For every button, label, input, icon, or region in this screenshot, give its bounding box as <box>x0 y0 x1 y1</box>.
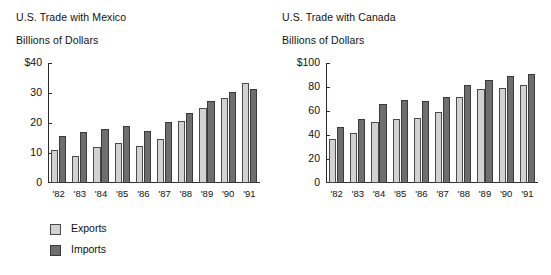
x-tick-label-canada-6: '88 <box>453 188 474 199</box>
bar-imports <box>379 104 386 183</box>
bar-group <box>499 63 514 183</box>
bar-exports <box>221 98 228 183</box>
legend-label-imports: Imports <box>71 243 106 255</box>
bar-group <box>221 63 236 183</box>
bar-imports <box>337 127 344 183</box>
chart-subtitle-mexico: Billions of Dollars <box>16 34 98 46</box>
x-tick-label-canada-9: '91 <box>517 188 538 199</box>
y-tick-label-canada-60: 60 <box>270 104 320 116</box>
chart-panel-canada: U.S. Trade with Canada Billions of Dolla… <box>270 0 551 275</box>
bar-imports <box>528 74 535 183</box>
bar-group <box>51 63 66 183</box>
x-tick-label-mexico-9: '91 <box>239 188 260 199</box>
bar-imports <box>59 136 66 183</box>
bar-group <box>157 63 172 183</box>
bar-imports <box>207 101 214 183</box>
bar-group <box>242 63 257 183</box>
bar-exports <box>477 89 484 183</box>
bar-group <box>93 63 108 183</box>
bar-imports <box>101 129 108 183</box>
bar-exports <box>499 88 506 183</box>
x-tick-label-canada-8: '90 <box>496 188 517 199</box>
chart-subtitle-canada: Billions of Dollars <box>282 34 364 46</box>
bar-imports <box>123 126 130 183</box>
plot-area-canada <box>326 63 538 183</box>
bar-group <box>414 63 429 183</box>
x-tick-label-mexico-7: '89 <box>196 188 217 199</box>
bar-imports <box>186 113 193 183</box>
bar-exports <box>136 146 143 183</box>
bar-group <box>178 63 193 183</box>
bar-exports <box>414 118 421 183</box>
x-tick-label-canada-0: '82 <box>326 188 347 199</box>
bar-exports <box>199 108 206 183</box>
bar-group <box>456 63 471 183</box>
bar-imports <box>144 131 151 183</box>
y-tick-label-canada-80: 80 <box>270 80 320 92</box>
bar-group <box>350 63 365 183</box>
x-tick-label-canada-1: '83 <box>347 188 368 199</box>
plot-area-mexico <box>48 63 260 183</box>
chart-title-mexico: U.S. Trade with Mexico <box>16 11 126 23</box>
bar-group <box>435 63 450 183</box>
x-tick-label-mexico-4: '86 <box>133 188 154 199</box>
x-tick-label-canada-7: '89 <box>474 188 495 199</box>
bar-exports <box>93 147 100 183</box>
x-tick-label-mexico-1: '83 <box>69 188 90 199</box>
bar-exports <box>157 139 164 183</box>
x-tick-label-canada-4: '86 <box>411 188 432 199</box>
bar-imports <box>165 122 172 183</box>
bar-imports <box>229 92 236 183</box>
bar-imports <box>401 100 408 183</box>
bar-imports <box>80 132 87 183</box>
legend-label-exports: Exports <box>71 222 107 234</box>
x-tick-label-mexico-8: '90 <box>218 188 239 199</box>
bar-group <box>393 63 408 183</box>
bar-exports <box>115 143 122 184</box>
bar-exports <box>242 83 249 183</box>
x-tick-label-mexico-6: '88 <box>175 188 196 199</box>
bar-imports <box>358 119 365 183</box>
bar-imports <box>443 97 450 183</box>
chart-panel-mexico: U.S. Trade with Mexico Billions of Dolla… <box>0 0 276 275</box>
y-tick-label-canada-20: 20 <box>270 152 320 164</box>
bar-exports <box>329 139 336 183</box>
bar-imports <box>485 80 492 183</box>
y-tick-label-canada-0: 0 <box>270 176 320 188</box>
bar-group <box>72 63 87 183</box>
chart-title-canada: U.S. Trade with Canada <box>282 11 396 23</box>
bar-imports <box>464 85 471 183</box>
bar-exports <box>393 119 400 183</box>
legend-swatch-imports-icon <box>50 245 61 256</box>
y-tick-label-canada-100: $100 <box>270 56 320 68</box>
bar-exports <box>456 97 463 183</box>
bar-exports <box>350 133 357 183</box>
x-tick-label-mexico-5: '87 <box>154 188 175 199</box>
y-tick-label-mexico-30: 30 <box>0 86 42 98</box>
y-tick-label-canada-40: 40 <box>270 128 320 140</box>
x-tick-label-canada-5: '87 <box>432 188 453 199</box>
bar-imports <box>507 76 514 183</box>
bar-group <box>520 63 535 183</box>
bar-imports <box>422 101 429 183</box>
x-tick-label-mexico-2: '84 <box>90 188 111 199</box>
bar-exports <box>435 112 442 183</box>
x-tick-label-mexico-0: '82 <box>48 188 69 199</box>
bar-exports <box>72 156 79 183</box>
bar-exports <box>371 122 378 183</box>
bar-group <box>136 63 151 183</box>
y-tick-label-mexico-20: 20 <box>0 116 42 128</box>
bar-exports <box>520 85 527 183</box>
bar-group <box>371 63 386 183</box>
x-tick-label-mexico-3: '85 <box>112 188 133 199</box>
x-tick-label-canada-2: '84 <box>368 188 389 199</box>
bar-group <box>199 63 214 183</box>
legend-swatch-exports-icon <box>50 224 61 235</box>
y-tick-label-mexico-0: 0 <box>0 176 42 188</box>
bar-exports <box>178 121 185 183</box>
bar-group <box>115 63 130 183</box>
bar-exports <box>51 150 58 183</box>
bar-series-mexico <box>48 63 260 183</box>
y-tick-label-mexico-10: 10 <box>0 146 42 158</box>
bar-group <box>477 63 492 183</box>
